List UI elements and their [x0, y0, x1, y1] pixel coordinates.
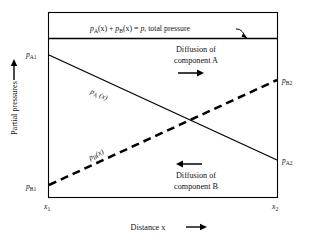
- diffusion-a-line1: Diffusion of: [176, 45, 216, 54]
- endpoint-pa1-sub: A1: [30, 54, 37, 60]
- x-tick-label-left: x1: [43, 202, 50, 212]
- y-axis-title-group: Partial pressures: [10, 81, 19, 135]
- x-tick-right-sub: 2: [275, 206, 278, 212]
- endpoint-label-pb1: pB1: [25, 182, 37, 192]
- endpoint-label-pb2: pB2: [281, 76, 293, 86]
- x-tick-left-sub: 1: [47, 206, 50, 212]
- diffusion-partial-pressure-figure: pA(x) + pB(x) = p, total pressure Diffus…: [0, 0, 313, 240]
- y-axis-arrow-icon: [11, 59, 17, 80]
- endpoint-label-pa1: pA1: [25, 50, 37, 60]
- diffusion-b-line1: Diffusion of: [176, 171, 216, 180]
- endpoint-pb2-sub: B2: [286, 80, 293, 86]
- endpoint-pb1-sub: B1: [30, 186, 37, 192]
- endpoint-pa2-sub: A2: [286, 160, 293, 166]
- y-axis-title: Partial pressures: [10, 81, 19, 135]
- total-pressure-close: (x) =: [123, 24, 140, 33]
- x-axis-title-text: Distance x: [131, 223, 166, 232]
- x-axis-arrow-icon: [186, 224, 207, 230]
- x-tick-label-right: x2: [271, 202, 278, 212]
- total-pressure-open: (x) +: [98, 24, 115, 33]
- diffusion-b-line2: component B: [174, 182, 218, 191]
- diffusion-a-line2: component A: [174, 56, 218, 65]
- endpoint-label-pa2: pA2: [281, 156, 293, 166]
- total-pressure-tail: , total pressure: [144, 24, 190, 33]
- figure-canvas: pA(x) + pB(x) = p, total pressure Diffus…: [0, 0, 313, 240]
- x-axis-title: Distance x: [131, 223, 166, 232]
- total-pressure-annotation: pA(x) + pB(x) = p, total pressure: [89, 24, 191, 34]
- plot-box: [49, 13, 278, 198]
